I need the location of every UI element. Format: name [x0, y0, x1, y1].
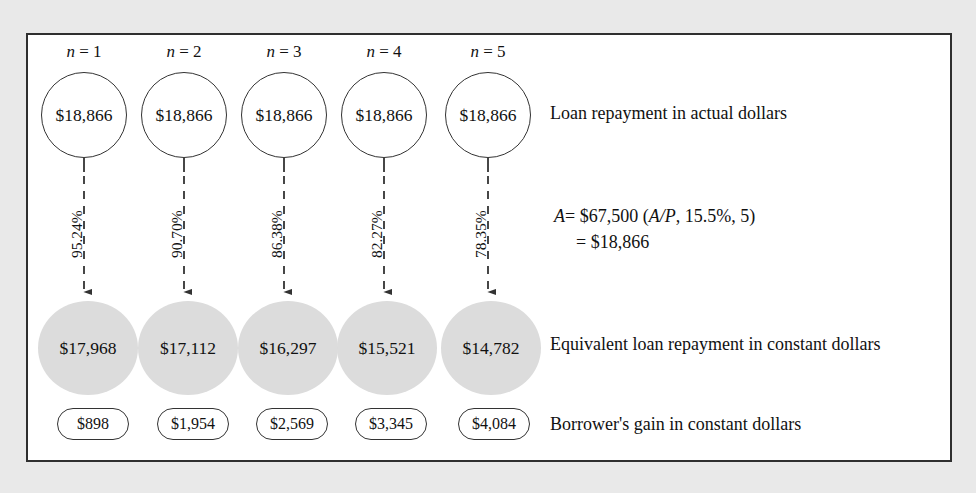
actual-dollars-circle-2: $18,866	[141, 72, 227, 158]
period-label-1-text: n = 1	[66, 42, 101, 61]
caption-borrower-gain: Borrower's gain in constant dollars	[550, 414, 801, 435]
deflation-factor-label-2: 90.70%	[168, 210, 186, 258]
period-label-2: n = 2	[166, 42, 201, 62]
actual-dollars-circle-4: $18,866	[341, 72, 427, 158]
borrower-gain-value-2: $1,954	[171, 415, 215, 433]
borrower-gain-pill-3: $2,569	[256, 408, 328, 440]
deflation-factor-label-5: 78.35%	[472, 210, 490, 258]
constant-dollars-circle-5: $14,782	[441, 301, 541, 395]
formula-annuity: A= $67,500 (A/P, 15.5%, 5) = $18,866	[554, 203, 755, 255]
actual-dollars-value-1: $18,866	[56, 105, 113, 126]
caption-actual-dollars: Loan repayment in actual dollars	[550, 103, 787, 124]
formula-lhs: A	[554, 206, 565, 226]
constant-dollars-circle-2: $17,112	[138, 301, 238, 395]
deflation-factor-label-4: 82.27%	[368, 210, 386, 258]
period-label-4-text: n = 4	[366, 42, 401, 61]
actual-dollars-value-3: $18,866	[256, 105, 313, 126]
caption-constant-dollars: Equivalent loan repayment in constant do…	[550, 334, 880, 355]
constant-dollars-value-5: $14,782	[463, 338, 520, 359]
borrower-gain-value-1: $898	[77, 415, 109, 433]
formula-line2: = $18,866	[554, 229, 755, 255]
deflation-factor-value-3: 86.38%	[268, 210, 285, 258]
deflation-factor-label-1: 95.24%	[68, 210, 86, 258]
deflation-factor-value-1: 95.24%	[68, 210, 85, 258]
borrower-gain-value-4: $3,345	[369, 415, 413, 433]
deflation-factor-value-4: 82.27%	[368, 210, 385, 258]
borrower-gain-value-5: $4,084	[472, 415, 516, 433]
borrower-gain-pill-1: $898	[57, 408, 129, 440]
actual-dollars-value-5: $18,866	[460, 105, 517, 126]
borrower-gain-pill-4: $3,345	[355, 408, 427, 440]
borrower-gain-pill-5: $4,084	[458, 408, 530, 440]
actual-dollars-circle-1: $18,866	[41, 72, 127, 158]
borrower-gain-pill-2: $1,954	[157, 408, 229, 440]
borrower-gain-value-3: $2,569	[270, 415, 314, 433]
constant-dollars-circle-1: $17,968	[38, 301, 138, 395]
actual-dollars-circle-3: $18,866	[241, 72, 327, 158]
deflation-factor-value-2: 90.70%	[168, 210, 185, 258]
period-label-3-text: n = 3	[266, 42, 301, 61]
period-label-5-text: n = 5	[470, 42, 505, 61]
actual-dollars-value-4: $18,866	[356, 105, 413, 126]
deflation-factor-label-3: 86.38%	[268, 210, 286, 258]
actual-dollars-circle-5: $18,866	[445, 72, 531, 158]
formula-factor: A/P	[649, 206, 676, 226]
constant-dollars-value-2: $17,112	[160, 338, 216, 359]
actual-dollars-value-2: $18,866	[156, 105, 213, 126]
figure-root: n = 1 n = 2 n = 3 n = 4 n = 5 $18,866 $1…	[0, 0, 976, 493]
period-label-2-text: n = 2	[166, 42, 201, 61]
deflation-factor-value-5: 78.35%	[472, 210, 489, 258]
constant-dollars-value-4: $15,521	[359, 338, 416, 359]
formula-rest: , 15.5%, 5)	[676, 206, 756, 226]
constant-dollars-circle-3: $16,297	[238, 301, 338, 395]
period-label-1: n = 1	[66, 42, 101, 62]
constant-dollars-value-1: $17,968	[60, 338, 117, 359]
formula-eq: = $67,500 (	[565, 206, 649, 226]
period-label-5: n = 5	[470, 42, 505, 62]
constant-dollars-circle-4: $15,521	[337, 301, 437, 395]
period-label-4: n = 4	[366, 42, 401, 62]
constant-dollars-value-3: $16,297	[260, 338, 317, 359]
period-label-3: n = 3	[266, 42, 301, 62]
